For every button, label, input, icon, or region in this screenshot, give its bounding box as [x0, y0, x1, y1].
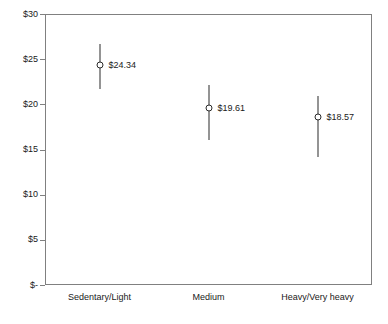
y-axis-tick-label: $15 — [2, 145, 38, 154]
y-axis-tick-mark — [40, 14, 45, 15]
x-axis-category-label: Heavy/Very heavy — [281, 292, 354, 302]
y-axis: $-$5$10$15$20$25$30 — [0, 0, 38, 324]
y-axis-tick-mark — [40, 195, 45, 196]
data-point-marker — [96, 62, 103, 69]
y-axis-tick-label: $25 — [2, 55, 38, 64]
data-point-marker — [205, 104, 212, 111]
y-axis-tick-mark — [40, 59, 45, 60]
y-axis-tick-mark — [40, 285, 45, 286]
data-point-value-label: $18.57 — [327, 113, 355, 122]
y-axis-tick-mark — [40, 150, 45, 151]
y-axis-tick-label: $- — [2, 281, 38, 290]
y-axis-tick-mark — [40, 240, 45, 241]
y-axis-tick-label: $10 — [2, 190, 38, 199]
error-bar-line — [208, 85, 209, 140]
chart-container: $-$5$10$15$20$25$30 Sedentary/LightMediu… — [0, 0, 388, 324]
data-point-marker — [314, 114, 321, 121]
plot-area — [45, 14, 372, 285]
y-axis-tick-label: $5 — [2, 235, 38, 244]
y-axis-tick-mark — [40, 104, 45, 105]
y-axis-tick-label: $20 — [2, 100, 38, 109]
x-axis-category-label: Sedentary/Light — [68, 292, 131, 302]
y-axis-tick-label: $30 — [2, 10, 38, 19]
error-bar-line — [317, 96, 318, 157]
data-point-value-label: $24.34 — [109, 61, 137, 70]
x-axis-category-label: Medium — [192, 292, 224, 302]
data-point-value-label: $19.61 — [218, 103, 246, 112]
